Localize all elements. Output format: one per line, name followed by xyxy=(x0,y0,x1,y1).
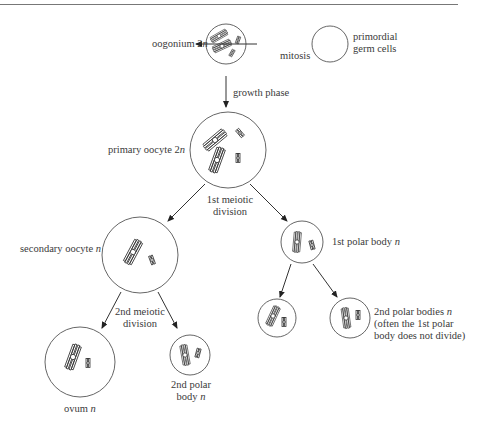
meiosis1-left-arrow xyxy=(168,184,205,221)
primordial-label: primordial germ cells xyxy=(353,31,397,55)
second-polar-body-left-cell xyxy=(258,299,296,337)
growth-phase-label: growth phase xyxy=(233,87,289,99)
first-polar-body-label: 1st polar body n xyxy=(332,236,400,248)
second-polar-body-cell xyxy=(170,335,210,375)
oogonium-label: oogonium 2n xyxy=(152,38,208,50)
primary-oocyte-label: primary oocyte 2n xyxy=(108,144,185,156)
ovum-cell xyxy=(45,327,115,397)
polar-division-right-arrow xyxy=(313,264,337,297)
secondary-oocyte-cell xyxy=(102,217,178,293)
ovum-label: ovum n xyxy=(64,403,96,415)
primordial-germ-cell xyxy=(312,26,348,62)
meiosis1-label: 1st meiotic division xyxy=(202,194,258,218)
oogenesis-diagram: oogonium 2n primordial germ cells mitosi… xyxy=(0,0,488,427)
second-polar-body-right-cell xyxy=(330,298,370,338)
mitosis-label: mitosis xyxy=(280,50,310,62)
polar-division-left-arrow xyxy=(280,264,291,297)
second-polar-body-label: 2nd polar body n xyxy=(166,379,216,403)
primary-oocyte-cell xyxy=(190,112,266,188)
secondary-oocyte-label: secondary oocyte n xyxy=(20,243,101,255)
first-polar-body-cell xyxy=(281,221,323,263)
meiosis2-label: 2nd meiotic division xyxy=(110,306,170,330)
second-polar-bodies-label: 2nd polar bodies n (often the 1st polar … xyxy=(374,306,465,342)
